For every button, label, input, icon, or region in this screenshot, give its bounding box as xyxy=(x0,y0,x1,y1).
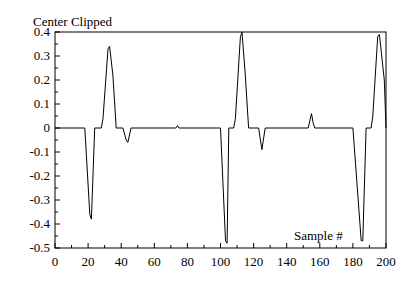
x-tick-label: 20 xyxy=(82,254,95,269)
x-tick-label: 40 xyxy=(115,254,128,269)
y-tick-label: -0.5 xyxy=(29,240,50,255)
x-axis: 020406080100120140160180200 xyxy=(52,243,396,269)
x-tick-label: 100 xyxy=(211,254,231,269)
x-tick-label: 180 xyxy=(343,254,363,269)
x-axis-label: Sample # xyxy=(294,228,343,243)
y-tick-label: -0.4 xyxy=(29,216,50,231)
y-tick-label: -0.3 xyxy=(29,192,50,207)
y-tick-label: -0.2 xyxy=(29,168,50,183)
plot-area xyxy=(55,32,386,248)
y-tick-label: 0.4 xyxy=(34,24,51,39)
y-tick-label: 0.1 xyxy=(34,96,50,111)
chart: Center Clipped 0.40.30.20.10-0.1-0.2-0.3… xyxy=(0,0,415,282)
x-tick-label: 140 xyxy=(277,254,297,269)
y-tick-label: 0.3 xyxy=(34,48,50,63)
x-tick-label: 80 xyxy=(181,254,194,269)
waveform-line xyxy=(55,32,386,243)
x-tick-label: 60 xyxy=(148,254,161,269)
y-tick-label: 0 xyxy=(44,120,51,135)
y-tick-label: -0.1 xyxy=(29,144,50,159)
y-tick-label: 0.2 xyxy=(34,72,50,87)
x-tick-label: 160 xyxy=(310,254,330,269)
x-tick-label: 120 xyxy=(244,254,264,269)
x-tick-label: 0 xyxy=(52,254,59,269)
x-tick-label: 200 xyxy=(376,254,396,269)
